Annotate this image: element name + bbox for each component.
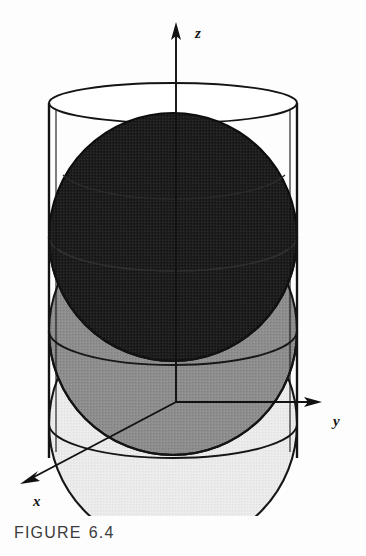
- x-axis-label: x: [32, 493, 41, 509]
- figure-caption-number: 6.4: [89, 524, 115, 541]
- figure-caption-prefix: FIGURE: [14, 524, 82, 541]
- top-sphere-group: [49, 113, 297, 361]
- z-axis-label: z: [194, 25, 201, 41]
- figure-container: z y x FIGURE6.4: [0, 0, 366, 556]
- top-sphere: [49, 113, 297, 361]
- y-axis-label: y: [331, 413, 340, 429]
- figure-illustration: z y x: [0, 0, 366, 516]
- figure-caption: FIGURE6.4: [14, 524, 115, 542]
